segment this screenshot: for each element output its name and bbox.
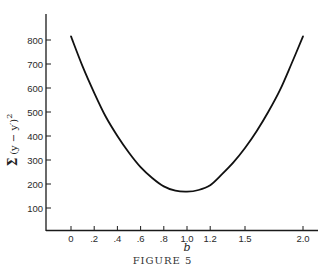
data-curve (71, 36, 303, 191)
x-tick-label: 1.2 (204, 233, 217, 244)
figure-caption: FIGURE 5 (0, 255, 325, 266)
y-axis-label: Σ(y − y′)2 (5, 114, 20, 167)
y-tick-label: 700 (27, 59, 43, 70)
y-tick-label: 100 (27, 203, 43, 214)
y-tick-label: 600 (27, 83, 43, 94)
x-axis: 0.2.4.6.81.01.21.52.0 (46, 226, 318, 244)
x-tick-label: .6 (137, 233, 145, 244)
svg-text:Σ(y − y′)2: Σ(y − y′)2 (5, 114, 20, 167)
y-tick-label: 200 (27, 179, 43, 190)
y-tick-label: 400 (27, 131, 43, 142)
chart: 100200300400500600700800 0.2.4.6.81.01.2… (0, 0, 325, 267)
x-tick-label: 0 (68, 233, 73, 244)
x-tick-label: .2 (90, 233, 98, 244)
y-axis: 100200300400500600700800 (27, 14, 51, 231)
x-tick-label: .4 (113, 233, 121, 244)
x-tick-label: .8 (160, 233, 168, 244)
x-tick-label: 1.5 (238, 233, 251, 244)
y-tick-label: 300 (27, 155, 43, 166)
x-tick-label: 2.0 (296, 233, 309, 244)
y-tick-label: 800 (27, 35, 43, 46)
x-axis-label: b (183, 241, 190, 254)
y-tick-label: 500 (27, 107, 43, 118)
